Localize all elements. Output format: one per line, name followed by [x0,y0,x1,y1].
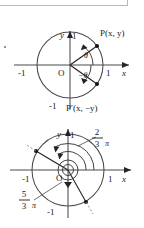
figure-unit-circle-angles: y 1 x 1 -1 -1 O 2 3 π 5 3 π [0,112,144,228]
two-thirds-pi-denominator: 3 [95,139,100,149]
point-p-prime-marker [95,82,99,86]
ray-five-thirds-pi-extension [86,202,93,214]
figure-unit-circle-reflection: y 1 x 1 -1 -1 O P(x, y) P′(x, −y) θ −θ [0,14,144,114]
x-axis-positive-tick: 1 [108,174,113,184]
two-thirds-pi-symbol: π [105,139,110,148]
y-axis-positive-tick: 1 [72,31,77,41]
y-axis-negative-tick: -1 [49,101,57,111]
five-thirds-pi-numerator: 5 [22,189,27,199]
point-p-marker [95,44,99,48]
angle-theta-label: θ [84,51,88,60]
y-axis-negative-tick: -1 [47,207,55,217]
two-thirds-pi-numerator: 2 [95,127,100,137]
y-axis-positive-tick: 1 [70,130,75,140]
x-axis-label: x [121,174,126,184]
x-axis-arrowhead [124,167,131,173]
figure-page: y 1 x 1 -1 -1 O P(x, y) P′(x, −y) θ −θ [0,0,144,228]
x-axis-negative-tick: -1 [18,68,26,78]
angle-negative-theta-label: −θ [78,71,87,80]
x-axis-positive-tick: 1 [106,68,111,78]
x-axis-negative-tick: -1 [22,174,30,184]
origin-label: O [58,68,65,78]
origin-label: O [56,173,63,183]
ray-two-thirds-pi-extension [25,144,36,151]
y-axis-label: y [56,129,61,139]
page-edge-box [0,0,128,6]
y-axis-label: y [59,30,64,40]
x-axis-label: x [121,68,126,78]
five-thirds-pi-symbol: π [32,201,37,210]
point-p-label: P(x, y) [100,28,125,38]
angle-label-two-thirds-pi: 2 3 π [92,127,110,149]
five-thirds-pi-denominator: 3 [22,201,27,211]
angle-arc-inner-arrowhead [64,182,72,188]
